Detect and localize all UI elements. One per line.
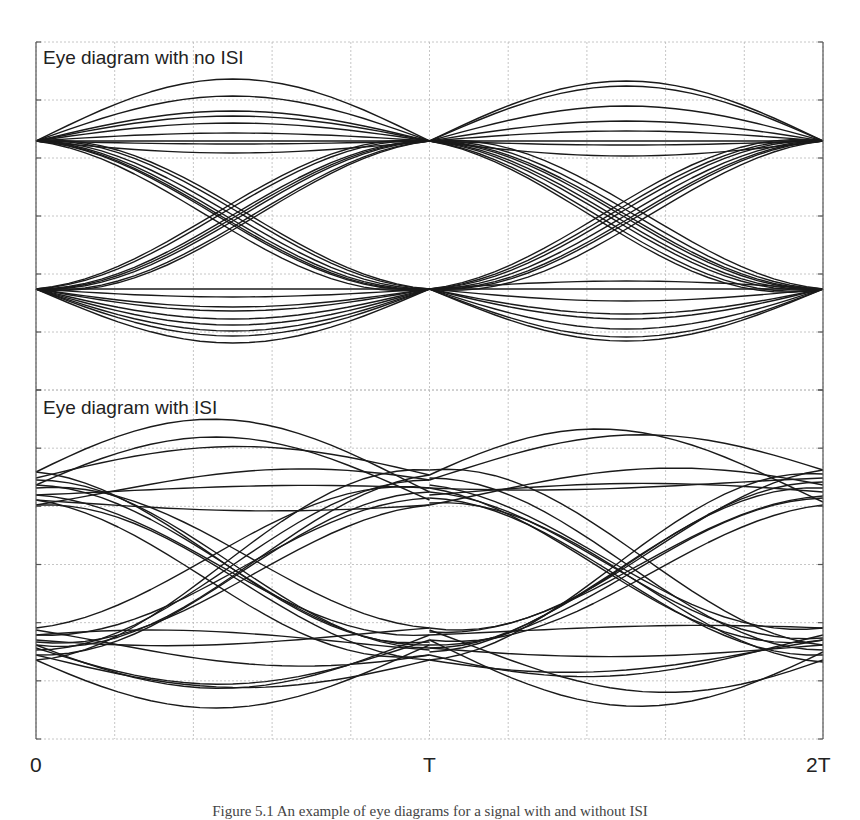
x-tick-2T: 2T	[806, 753, 831, 777]
x-tick-0: 0	[30, 753, 42, 777]
figure-caption: Figure 5.1 An example of eye diagrams fo…	[0, 803, 860, 820]
x-tick-T: T	[423, 753, 436, 777]
panel-title-isi: Eye diagram with ISI	[43, 397, 217, 419]
panel-title-no-isi: Eye diagram with no ISI	[43, 47, 244, 69]
eye-traces	[36, 79, 823, 708]
